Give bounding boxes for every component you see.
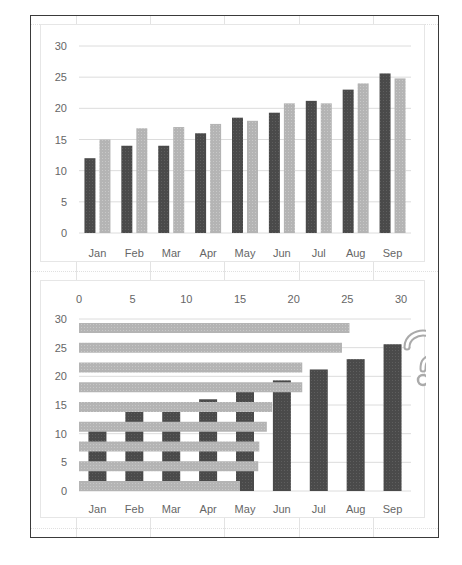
column-series-dark — [310, 369, 328, 491]
bar-series-dark — [158, 146, 169, 233]
y-tick-label: 0 — [61, 485, 67, 497]
bar-series-light — [173, 127, 184, 233]
sheet-gridline — [31, 271, 438, 272]
y-tick-label: 15 — [55, 399, 67, 411]
column-series-dark — [273, 380, 291, 491]
x-tick-label: Jun — [273, 503, 291, 515]
bar-series-light — [395, 78, 406, 233]
y-tick-label: 30 — [55, 313, 67, 325]
x-tick-label: Apr — [200, 247, 217, 259]
bar-series-dark — [306, 101, 317, 233]
top-axis-tick-label: 10 — [180, 293, 192, 305]
top-axis-tick-label: 25 — [341, 293, 353, 305]
y-tick-label: 20 — [55, 370, 67, 382]
top-axis-tick-label: 30 — [395, 293, 407, 305]
bar-series-light — [358, 83, 369, 233]
x-tick-label: Feb — [125, 247, 144, 259]
y-tick-label: 5 — [61, 196, 67, 208]
horizontal-bar-series-light — [79, 343, 342, 353]
x-tick-label: May — [235, 247, 256, 259]
bar-series-light — [284, 103, 295, 233]
y-tick-label: 0 — [61, 227, 67, 239]
bar-series-light — [99, 140, 110, 234]
bar-series-dark — [121, 146, 132, 233]
horizontal-bar-series-light — [79, 402, 272, 412]
bar-series-dark — [343, 90, 354, 233]
x-tick-label: Jun — [273, 247, 291, 259]
top-axis-tick-label: 0 — [76, 293, 82, 305]
x-tick-label: Jan — [89, 503, 107, 515]
y-tick-label: 20 — [55, 102, 67, 114]
top-axis-tick-label: 15 — [234, 293, 246, 305]
sheet-gridline — [31, 528, 438, 529]
x-tick-label: May — [235, 503, 256, 515]
x-tick-label: Feb — [125, 503, 144, 515]
bar-series-dark — [84, 158, 95, 233]
column-series-dark — [88, 422, 106, 491]
y-tick-label: 30 — [55, 40, 67, 52]
x-tick-label: Sep — [383, 247, 403, 259]
y-tick-label: 15 — [55, 134, 67, 146]
bar-series-dark — [380, 73, 391, 233]
x-tick-label: Mar — [162, 503, 181, 515]
x-tick-label: Sep — [383, 503, 403, 515]
bar-series-dark — [232, 118, 243, 233]
x-tick-label: Mar — [162, 247, 181, 259]
top-axis-tick-label: 20 — [288, 293, 300, 305]
bar-series-light — [136, 128, 147, 233]
x-tick-label: Apr — [200, 503, 217, 515]
bar-series-light — [210, 124, 221, 233]
top-chart-plot: 051015202530JanFebMarAprMayJunJulAugSep — [41, 25, 426, 263]
horizontal-bar-series-light — [79, 363, 302, 373]
bottom-combo-chart[interactable]: 051015202530051015202530JanFebMarAprMayJ… — [40, 280, 425, 518]
horizontal-bar-series-light — [79, 323, 349, 333]
column-series-dark — [384, 344, 402, 491]
bar-series-dark — [195, 133, 206, 233]
column-series-dark — [236, 385, 254, 491]
x-tick-label: Jan — [89, 247, 107, 259]
y-tick-label: 10 — [55, 165, 67, 177]
horizontal-bar-series-light — [79, 481, 240, 491]
column-series-dark — [347, 359, 365, 491]
top-column-chart[interactable]: 051015202530JanFebMarAprMayJunJulAugSep — [40, 24, 425, 262]
horizontal-bar-series-light — [79, 442, 259, 452]
bar-series-light — [321, 103, 332, 233]
x-tick-label: Aug — [346, 503, 366, 515]
y-tick-label: 10 — [55, 428, 67, 440]
y-tick-label: 5 — [61, 456, 67, 468]
horizontal-bar-series-light — [79, 422, 267, 432]
top-axis-tick-label: 5 — [130, 293, 136, 305]
horizontal-bar-series-light — [79, 461, 258, 471]
horizontal-bar-series-light — [79, 382, 302, 392]
y-tick-label: 25 — [55, 71, 67, 83]
x-tick-label: Aug — [346, 247, 366, 259]
question-mark-icon — [407, 333, 426, 385]
bar-series-light — [247, 121, 258, 233]
bar-series-dark — [269, 113, 280, 233]
bottom-chart-plot: 051015202530051015202530JanFebMarAprMayJ… — [41, 281, 426, 519]
y-tick-label: 25 — [55, 342, 67, 354]
x-tick-label: Jul — [312, 503, 326, 515]
x-tick-label: Jul — [312, 247, 326, 259]
